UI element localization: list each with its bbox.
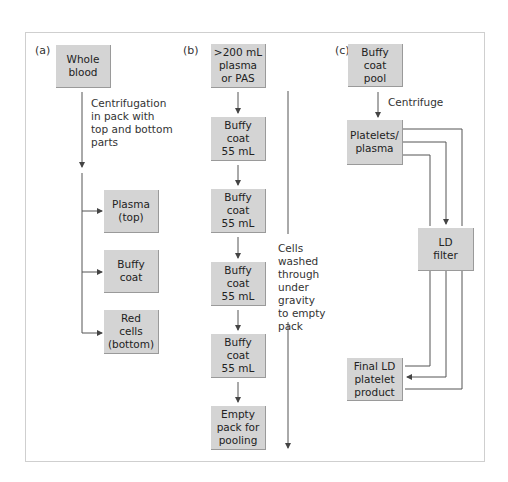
connector-lines bbox=[0, 0, 508, 482]
